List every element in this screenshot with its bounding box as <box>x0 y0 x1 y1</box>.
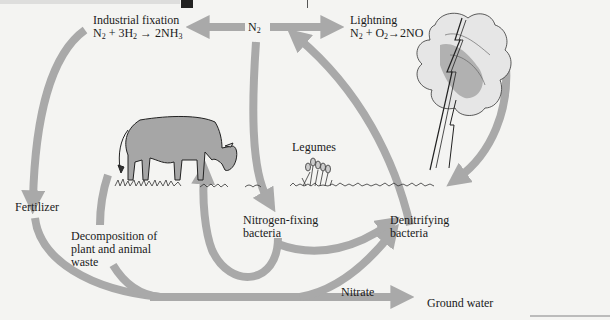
nitrogen-cycle-diagram <box>0 0 610 320</box>
lightning-equation: N2 + O2→2NO <box>350 27 423 40</box>
n2-label: N2 <box>248 21 261 34</box>
nitrogen-fixing-bacteria-label: Nitrogen-fixing bacteria <box>243 214 318 240</box>
ground-water-label: Ground water <box>427 297 493 310</box>
decomposition-label: Decomposition of plant and animal waste <box>71 230 157 269</box>
fertilizer-label: Fertilizer <box>15 201 59 214</box>
arrow-n2-to-nitrogen-fixing <box>253 42 268 200</box>
legumes-label: Legumes <box>292 141 336 154</box>
cow-illustration <box>118 116 237 180</box>
legume-plants-illustration <box>302 158 332 186</box>
industrial-fixation-label: Industrial fixation N2 + 3H2 → 2NH3 <box>93 14 182 40</box>
nitrate-label: Nitrate <box>341 286 374 299</box>
grass-ground-line <box>115 179 434 187</box>
arrow-cow-to-decomposition <box>100 175 108 225</box>
lightning-label: Lightning N2 + O2→2NO <box>350 14 423 40</box>
arrow-industrial-to-fertilizer <box>33 30 85 200</box>
industrial-fixation-equation: N2 + 3H2 → 2NH3 <box>93 27 182 40</box>
storm-cloud-illustration <box>417 13 511 170</box>
arrow-denitrifying-to-n2 <box>298 38 410 225</box>
denitrifying-bacteria-label: Denitrifying bacteria <box>390 214 449 240</box>
